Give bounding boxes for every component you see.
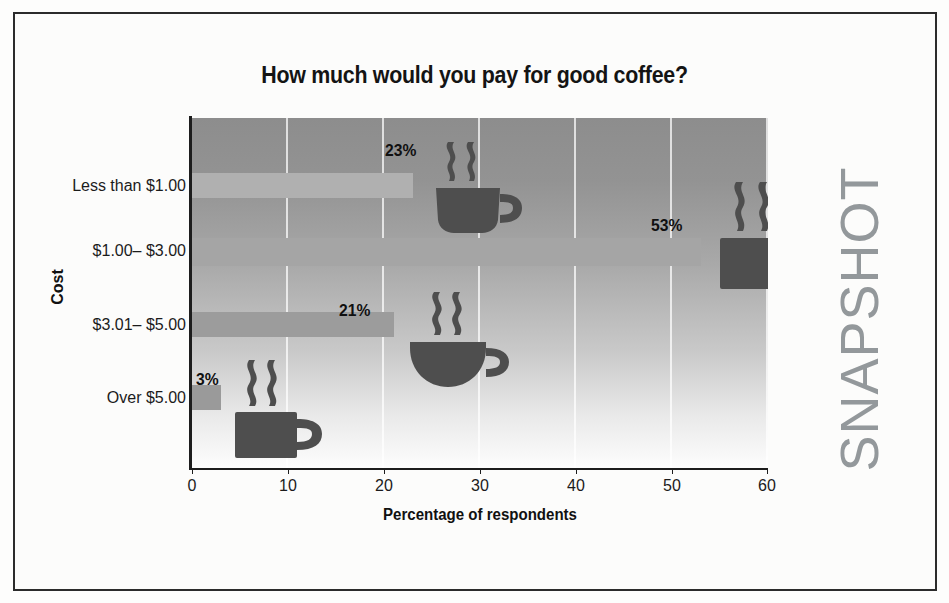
xtick-mark-30 [480, 468, 481, 474]
y-axis-category-labels: Less than $1.00 $1.00– $3.00 $3.01– $5.0… [10, 0, 186, 603]
y-axis-title: Cost [49, 269, 67, 305]
value-label-3: 3% [196, 370, 219, 390]
xtick-label-60: 60 [742, 477, 792, 495]
xtick-mark-0 [192, 468, 193, 474]
gridline-40 [574, 118, 576, 468]
snapshot-chart-figure: How much would you pay for good coffee? … [0, 0, 949, 603]
value-label-21: 21% [339, 301, 370, 321]
xtick-label-30: 30 [455, 477, 505, 495]
value-label-23: 23% [385, 141, 416, 161]
snapshot-watermark: SNAPSHOT [828, 166, 890, 471]
xtick-label-10: 10 [263, 477, 313, 495]
gridline-50 [670, 118, 672, 468]
xtick-label-50: 50 [647, 477, 697, 495]
bar-less-than-1 [192, 173, 413, 198]
y-label-1-to-3: $1.00– $3.00 [16, 242, 186, 260]
plot-area [192, 118, 768, 468]
y-label-over-5: Over $5.00 [16, 389, 186, 407]
gridline-60 [766, 118, 768, 468]
bar-1-to-3 [192, 238, 701, 266]
gridline-20 [382, 118, 384, 468]
xtick-mark-50 [672, 468, 673, 474]
teacup-icon [404, 290, 514, 392]
gridline-30 [478, 118, 480, 468]
gridline-10 [286, 118, 288, 468]
y-label-less-than-1: Less than $1.00 [16, 177, 186, 195]
xtick-mark-20 [384, 468, 385, 474]
xtick-label-20: 20 [359, 477, 409, 495]
coffee-mug-icon [706, 178, 768, 294]
y-label-3-to-5: $3.01– $5.00 [16, 316, 186, 334]
tall-mug-icon [225, 358, 333, 462]
xtick-label-0: 0 [167, 477, 217, 495]
value-label-53: 53% [651, 216, 682, 236]
y-axis-line [189, 116, 192, 470]
xtick-mark-10 [288, 468, 289, 474]
coffee-cup-icon [424, 136, 530, 236]
x-axis-title: Percentage of respondents [209, 506, 750, 524]
xtick-mark-40 [576, 468, 577, 474]
xtick-mark-60 [767, 468, 768, 474]
x-axis-line [190, 468, 768, 470]
xtick-label-40: 40 [551, 477, 601, 495]
